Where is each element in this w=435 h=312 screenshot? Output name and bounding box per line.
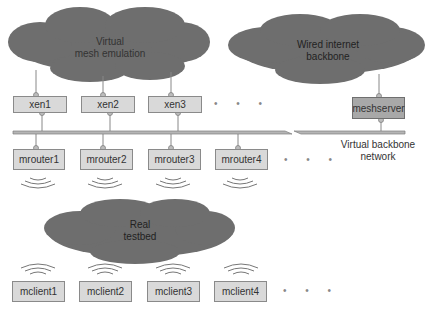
backbone-label-line2: network [328,151,428,163]
wired-cloud-line2: backbone [278,51,378,63]
virtual-cloud-line2: mesh emulation [55,48,165,60]
router-wifi-icons [21,178,257,188]
xen1-node[interactable]: xen1 [13,96,67,113]
wired-cloud-label: Wired internet backbone [278,39,378,63]
wired-cloud-line1: Wired internet [278,39,378,51]
xen-ellipsis: • • • [214,98,270,109]
backbone-label-line1: Virtual backbone [328,139,428,151]
mclient3-node[interactable]: mclient3 [147,281,200,302]
virtual-cloud-line1: Virtual [55,36,165,48]
virtual-cloud-label: Virtual mesh emulation [55,36,165,60]
client-wifi-icons [21,264,258,274]
client-ellipsis: • • • [283,285,339,296]
mrouter3-node[interactable]: mrouter3 [148,149,201,170]
virtual-backbone-bar [13,131,405,134]
mrouter1-node[interactable]: mrouter1 [13,149,65,170]
mrouter2-node[interactable]: mrouter2 [80,149,133,170]
mclient4-node[interactable]: mclient4 [214,281,267,302]
router-ellipsis: • • • [284,154,340,165]
real-cloud-line1: Real [110,219,170,231]
mclient1-node[interactable]: mclient1 [12,281,65,302]
backbone-label: Virtual backbone network [328,139,428,163]
real-cloud-label: Real testbed [110,219,170,243]
mclient2-node[interactable]: mclient2 [79,281,132,302]
mrouter4-node[interactable]: mrouter4 [215,149,268,170]
xen2-node[interactable]: xen2 [81,96,135,113]
meshserver-node[interactable]: meshserver [352,97,405,119]
real-cloud-line2: testbed [110,231,170,243]
xen3-node[interactable]: xen3 [148,96,202,113]
